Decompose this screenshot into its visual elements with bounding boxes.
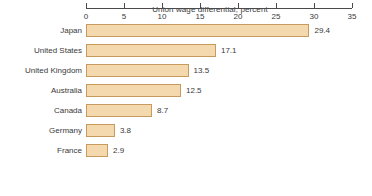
x-axis-tick-label: 15 xyxy=(196,12,205,21)
category-label: France xyxy=(57,141,86,161)
x-axis-tick-label: 0 xyxy=(84,12,88,21)
bar xyxy=(86,84,181,97)
x-axis-tick-label: 10 xyxy=(158,12,167,21)
x-axis-tick xyxy=(238,3,239,8)
bar-row: Australia12.5 xyxy=(0,81,372,101)
x-axis-line xyxy=(86,8,352,9)
category-label: United States xyxy=(34,41,86,61)
bar xyxy=(86,44,216,57)
x-axis: 05101520253035 xyxy=(0,0,372,31)
category-label: United Kingdom xyxy=(25,61,86,81)
category-label: Germany xyxy=(49,121,86,141)
bar-row: Canada8.7 xyxy=(0,101,372,121)
x-axis-tick-label: 25 xyxy=(272,12,281,21)
x-axis-tick xyxy=(200,3,201,8)
x-axis-tick xyxy=(162,3,163,8)
bar xyxy=(86,64,189,77)
bar xyxy=(86,144,108,157)
plot-area: Japan29.4United States17.1United Kingdom… xyxy=(0,20,372,165)
bar-value-label: 2.9 xyxy=(113,141,124,161)
bar-value-label: 12.5 xyxy=(186,81,202,101)
category-label: Canada xyxy=(54,101,86,121)
bar-value-label: 3.8 xyxy=(120,121,131,141)
category-label: Australia xyxy=(51,81,86,101)
bar xyxy=(86,104,152,117)
bar-row: United Kingdom13.5 xyxy=(0,61,372,81)
bar-row: United States17.1 xyxy=(0,41,372,61)
x-axis-tick xyxy=(352,3,353,8)
x-axis-tick xyxy=(86,3,87,8)
x-axis-tick xyxy=(124,3,125,8)
bar xyxy=(86,124,115,137)
x-axis-tick-label: 20 xyxy=(234,12,243,21)
bar-row: France2.9 xyxy=(0,141,372,161)
x-axis-tick xyxy=(314,3,315,8)
bar-value-label: 17.1 xyxy=(221,41,237,61)
x-axis-tick-label: 5 xyxy=(122,12,126,21)
x-axis-tick xyxy=(276,3,277,8)
x-axis-tick-label: 35 xyxy=(348,12,357,21)
bar-chart: Union wage differential, percent Japan29… xyxy=(0,0,372,196)
bar-row: Germany3.8 xyxy=(0,121,372,141)
bar-value-label: 13.5 xyxy=(194,61,210,81)
x-axis-tick-label: 30 xyxy=(310,12,319,21)
bar-value-label: 8.7 xyxy=(157,101,168,121)
